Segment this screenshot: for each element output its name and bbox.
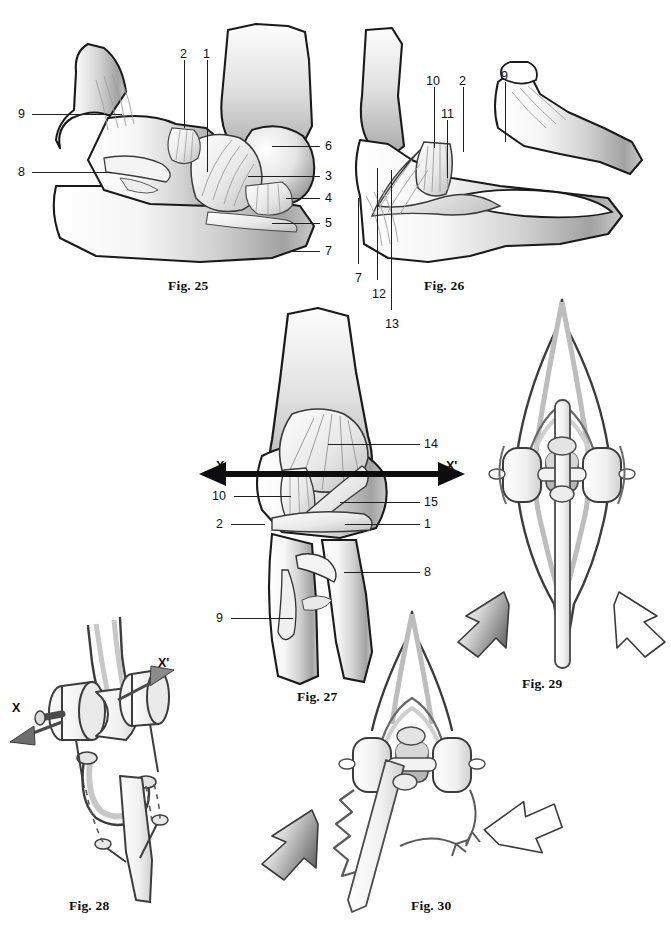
fig28-axis-arrow bbox=[10, 666, 174, 745]
page-footer-sliver bbox=[12, 927, 242, 934]
fig26-label-9: 9 bbox=[501, 70, 508, 83]
fig27-label-1: 1 bbox=[424, 518, 431, 531]
figure-caption-fig28: Fig. 28 bbox=[69, 898, 109, 914]
fig26-label-7: 7 bbox=[355, 272, 362, 285]
figure-caption-fig30: Fig. 30 bbox=[411, 898, 451, 914]
anatomy-plate: Fig. 25982163457Fig. 2610291171213Fig. 2… bbox=[0, 0, 671, 935]
figure-caption-fig25: Fig. 25 bbox=[168, 278, 208, 294]
fig25-label-1: 1 bbox=[203, 48, 210, 61]
fig27-label-2: 2 bbox=[216, 518, 223, 531]
figure-caption-fig26: Fig. 26 bbox=[424, 278, 464, 294]
fig25-label-8: 8 bbox=[18, 166, 25, 179]
fig25-label-2: 2 bbox=[180, 48, 187, 61]
figure-caption-fig27: Fig. 27 bbox=[297, 689, 337, 705]
fig25-label-4: 4 bbox=[325, 192, 332, 205]
fig26-label-2: 2 bbox=[459, 75, 466, 88]
fig25-label-7: 7 bbox=[325, 245, 332, 258]
fig27-axis-arrow bbox=[199, 462, 465, 486]
leader-line-group bbox=[32, 60, 505, 618]
fig27-axis-label-Xprime: X' bbox=[446, 460, 457, 473]
figure-caption-fig29: Fig. 29 bbox=[522, 676, 562, 692]
fig27-axis-label-X: X bbox=[216, 460, 224, 473]
fig26-label-13: 13 bbox=[385, 318, 399, 331]
fig27-label-10: 10 bbox=[212, 490, 226, 503]
fig25-label-3: 3 bbox=[325, 170, 332, 183]
fig28-axis-label-Xprime: X' bbox=[158, 657, 169, 670]
fig28-axis-label-X: X bbox=[12, 702, 20, 715]
fig26-label-11: 11 bbox=[441, 108, 454, 121]
annotation-layer bbox=[0, 0, 671, 935]
fig27-label-15: 15 bbox=[424, 496, 438, 509]
fig27-label-9: 9 bbox=[216, 612, 223, 625]
fig25-label-5: 5 bbox=[325, 217, 332, 230]
fig26-label-10: 10 bbox=[426, 75, 440, 88]
fig27-label-14: 14 bbox=[424, 438, 438, 451]
fig25-label-6: 6 bbox=[325, 140, 332, 153]
fig26-label-12: 12 bbox=[372, 288, 386, 301]
fig25-label-9: 9 bbox=[18, 108, 25, 121]
fig27-label-8: 8 bbox=[424, 566, 431, 579]
